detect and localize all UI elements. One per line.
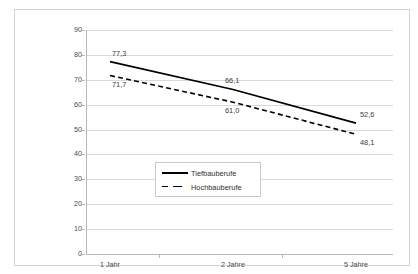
y-tick-label-80: 80 xyxy=(48,51,82,59)
y-tick-mark-60 xyxy=(82,105,85,106)
legend-label-hochbauberufe: Hochbauberufe xyxy=(188,183,242,192)
gridline-70 xyxy=(86,80,393,81)
y-tick-label-50: 50 xyxy=(48,126,82,134)
data-label-s1-p0: 71,7 xyxy=(112,81,126,89)
y-tick-mark-30 xyxy=(82,179,85,180)
gridline-0 xyxy=(86,254,393,255)
y-tick-mark-20 xyxy=(82,204,85,205)
y-axis-line xyxy=(86,30,87,255)
cropped-top-edge xyxy=(0,0,418,7)
x-tick-label-1: 2 Jahre xyxy=(193,260,273,269)
y-tick-label-30: 30 xyxy=(48,175,82,183)
cropped-text-sliver xyxy=(14,0,16,1)
y-tick-mark-90 xyxy=(82,30,85,31)
legend-item-tiefbauberufe: Tiefbauberufe xyxy=(162,168,236,178)
chart-plot-frame: 9080706050403020100 1 Jahr2 Jahre5 Jahre… xyxy=(14,9,410,266)
data-label-s1-p1: 61,0 xyxy=(225,107,239,115)
data-label-s0-p0: 77,3 xyxy=(112,50,126,58)
data-label-s0-p2: 52,6 xyxy=(360,111,374,119)
x-tick-mark-1 xyxy=(159,254,160,258)
data-label-s0-p1: 66,1 xyxy=(225,77,239,85)
x-tick-mark-2 xyxy=(282,254,283,258)
y-tick-label-90: 90 xyxy=(48,26,82,34)
y-tick-mark-10 xyxy=(82,229,85,230)
gridline-50 xyxy=(86,130,393,131)
y-tick-label-40: 40 xyxy=(48,150,82,158)
gridline-90 xyxy=(86,30,393,31)
gridline-20 xyxy=(86,204,393,205)
y-tick-mark-40 xyxy=(82,154,85,155)
legend-item-hochbauberufe: Hochbauberufe xyxy=(162,182,242,192)
y-tick-mark-0 xyxy=(82,254,85,255)
y-tick-mark-50 xyxy=(82,130,85,131)
y-tick-label-70: 70 xyxy=(48,76,82,84)
chart-legend: Tiefbauberufe Hochbauberufe xyxy=(155,162,261,197)
data-label-s1-p2: 48,1 xyxy=(360,139,374,147)
y-tick-label-10: 10 xyxy=(48,225,82,233)
gridline-10 xyxy=(86,229,393,230)
x-tick-label-2: 5 Jahre xyxy=(316,260,396,269)
legend-solid-line-icon xyxy=(162,169,188,177)
y-tick-label-60: 60 xyxy=(48,101,82,109)
legend-dashed-line-icon xyxy=(162,183,188,191)
gridline-80 xyxy=(86,55,393,56)
y-tick-mark-80 xyxy=(82,55,85,56)
y-tick-label-0: 0 xyxy=(48,250,82,258)
gridline-60 xyxy=(86,105,393,106)
gridline-40 xyxy=(86,154,393,155)
y-tick-label-20: 20 xyxy=(48,200,82,208)
y-tick-mark-70 xyxy=(82,80,85,81)
chart-container: 9080706050403020100 1 Jahr2 Jahre5 Jahre… xyxy=(0,0,418,274)
x-tick-label-0: 1 Jahr xyxy=(70,260,150,269)
legend-label-tiefbauberufe: Tiefbauberufe xyxy=(188,169,236,178)
